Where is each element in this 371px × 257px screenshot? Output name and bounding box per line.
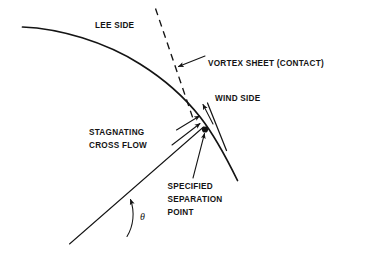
body-contour [23,27,238,181]
leader-vortex-sheet [179,56,206,67]
label-lee-side: LEE SIDE [95,21,135,30]
figure-canvas: LEE SIDE VORTEX SHEET (CONTACT) WIND SID… [0,0,371,257]
leader-stagnating-cross-flow-upper [177,116,200,130]
angle-arc-theta [127,200,133,237]
label-theta-angle: θ [140,211,145,222]
leader-specified-separation-point [193,134,205,179]
label-separation-line2: SEPARATION [168,195,223,204]
label-stagnating-line2: CROSS FLOW [89,141,147,150]
separation-point-dot [202,126,208,132]
label-separation-line1: SPECIFIED [168,182,213,191]
diagram-svg: LEE SIDE VORTEX SHEET (CONTACT) WIND SID… [0,0,371,257]
label-wind-side: WIND SIDE [215,94,261,103]
label-stagnating-line1: STAGNATING [89,128,144,137]
label-vortex-sheet: VORTEX SHEET (CONTACT) [208,59,324,68]
label-separation-line3: POINT [168,208,194,217]
